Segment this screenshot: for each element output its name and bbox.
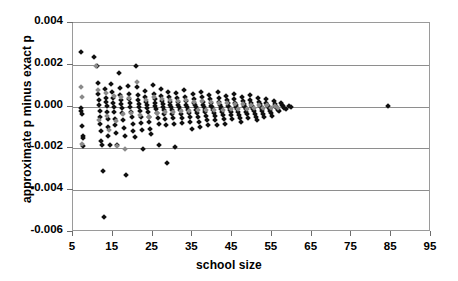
x-axis-tick: [271, 231, 272, 236]
data-point: [385, 103, 391, 109]
data-point: [162, 116, 168, 122]
data-point: [120, 111, 126, 117]
y-axis-tick: [67, 189, 73, 190]
x-axis-tick: [311, 231, 312, 236]
data-point: [113, 131, 119, 137]
data-point: [79, 124, 85, 130]
x-axis-tick-label: 45: [211, 240, 251, 252]
data-point: [155, 115, 161, 121]
data-point: [215, 90, 221, 96]
data-point: [163, 122, 169, 128]
data-point: [95, 80, 101, 86]
data-point: [125, 83, 131, 89]
data-point: [100, 169, 106, 175]
data-point: [133, 63, 139, 69]
data-point: [121, 125, 127, 131]
data-point: [108, 81, 114, 87]
x-axis-tick: [72, 231, 73, 236]
data-point: [106, 127, 112, 133]
y-axis-tick-label: 0.002: [3, 56, 63, 68]
data-point: [101, 214, 107, 220]
data-point: [150, 82, 156, 88]
x-axis-title: school size: [0, 258, 458, 272]
data-point: [122, 133, 128, 139]
data-point: [80, 136, 86, 142]
y-axis-title: approximate p minus exact p: [20, 4, 34, 234]
data-point: [117, 85, 123, 91]
y-axis-tick: [67, 106, 73, 107]
x-axis-tick-label: 55: [251, 240, 291, 252]
data-point: [78, 49, 84, 55]
x-axis-tick: [152, 231, 153, 236]
x-axis-tick-label: 65: [291, 240, 331, 252]
data-point: [171, 121, 177, 127]
x-axis-tick: [350, 231, 351, 236]
y-axis-tick-label: 0.004: [3, 14, 63, 26]
data-point: [147, 119, 153, 125]
data-point: [156, 122, 162, 128]
data-point: [158, 86, 164, 92]
x-axis-tick: [231, 231, 232, 236]
data-point: [214, 122, 220, 128]
y-axis-tick-label: 0.000: [3, 98, 63, 110]
data-point: [103, 90, 109, 96]
data-point: [139, 127, 145, 133]
data-point: [79, 85, 85, 91]
data-point: [149, 131, 155, 137]
y-axis-tick-label: -0.002: [3, 139, 63, 151]
data-point: [254, 118, 260, 124]
x-axis-tick-label: 5: [52, 240, 92, 252]
data-point: [222, 121, 228, 127]
data-point: [156, 142, 162, 148]
data-point: [135, 79, 141, 85]
x-axis-tick: [390, 231, 391, 236]
data-point: [154, 110, 160, 116]
data-point: [180, 120, 186, 126]
data-point: [123, 172, 129, 178]
gridline-y: [73, 190, 429, 191]
y-axis-tick: [67, 22, 73, 23]
data-point: [188, 119, 194, 125]
data-point: [79, 111, 85, 117]
x-axis-tick-label: 95: [410, 240, 450, 252]
x-axis-tick-label: 25: [132, 240, 172, 252]
scatter-chart-figure: approximate p minus exact p school size …: [0, 0, 458, 281]
gridline-y: [73, 65, 429, 66]
x-axis-tick-label: 15: [92, 240, 132, 252]
data-point: [189, 126, 195, 132]
y-axis-tick-label: -0.004: [3, 181, 63, 193]
data-point: [229, 116, 235, 122]
data-point: [106, 133, 112, 139]
data-point: [164, 160, 170, 166]
data-point: [97, 108, 103, 114]
data-point: [92, 54, 98, 60]
data-point: [146, 114, 152, 120]
data-point: [120, 117, 126, 123]
data-point: [79, 94, 85, 100]
data-point: [197, 124, 203, 130]
y-axis-tick: [67, 64, 73, 65]
data-point: [134, 85, 140, 91]
x-axis-tick-label: 75: [330, 240, 370, 252]
plot-area: [72, 22, 430, 231]
data-point: [139, 120, 145, 126]
data-point: [288, 104, 294, 110]
data-point: [122, 147, 128, 153]
y-axis-tick-label: -0.006: [3, 223, 63, 235]
x-axis-tick-label: 85: [370, 240, 410, 252]
y-axis-tick: [67, 147, 73, 148]
data-point: [182, 87, 188, 93]
x-axis-tick: [430, 231, 431, 236]
x-axis-tick: [112, 231, 113, 236]
data-point: [116, 70, 122, 76]
data-point: [261, 114, 267, 120]
data-point: [205, 123, 211, 129]
data-point: [98, 128, 104, 134]
x-axis-tick-label: 35: [171, 240, 211, 252]
data-point: [130, 121, 136, 127]
data-point: [238, 119, 244, 125]
data-point: [111, 109, 117, 115]
data-point: [269, 113, 275, 119]
data-point: [140, 146, 146, 152]
data-point: [131, 128, 137, 134]
